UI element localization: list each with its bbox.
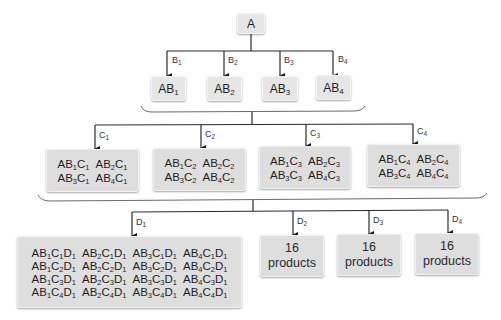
- brace-level2: [38, 193, 487, 201]
- node-c4-group: AB1C4AB2C4 AB3C4AB4C4: [367, 144, 460, 187]
- edge-label-b2: B2: [228, 56, 238, 65]
- node-ab1: AB1: [151, 76, 186, 101]
- edge-label-d4: D4: [452, 215, 462, 224]
- node-ab2: AB2: [207, 76, 242, 101]
- node-d1-group: AB1C1D1AB2C1D1AB3C1D1AB4C1D1 AB1C2D1AB2C…: [17, 236, 242, 308]
- node-ab4: AB4: [316, 75, 351, 100]
- product-unit: products: [345, 255, 393, 270]
- edge-label-b3: B3: [284, 56, 294, 65]
- edge-label-c1: C1: [99, 131, 109, 140]
- node-d4-products: 16 products: [415, 233, 479, 275]
- node-d3-products: 16 products: [337, 234, 401, 276]
- root-label: A: [247, 18, 255, 30]
- node-d2-products: 16 products: [260, 235, 324, 277]
- edge-label-b4: B4: [338, 55, 348, 64]
- node-ab3: AB3: [262, 76, 298, 101]
- node-c2-group: AB1C2AB2C2 AB3C2AB4C2: [153, 148, 246, 191]
- node-c3-group: AB1C3AB2C3 AB3C3AB4C3: [259, 146, 351, 189]
- brace-level1: [141, 106, 365, 112]
- product-count: 16: [423, 239, 471, 254]
- edge-label-c4: C4: [417, 127, 427, 136]
- product-count: 16: [345, 240, 393, 255]
- edge-label-d1: D1: [136, 218, 146, 227]
- edge-label-b1: B1: [172, 56, 182, 65]
- edge-label-d3: D3: [373, 216, 383, 225]
- product-unit: products: [268, 256, 316, 271]
- edge-label-c3: C3: [310, 129, 320, 138]
- root-node: A: [237, 13, 265, 34]
- edge-label-c2: C2: [205, 130, 215, 139]
- product-count: 16: [268, 241, 316, 256]
- edge-label-d2: D2: [297, 217, 307, 226]
- product-unit: products: [423, 254, 471, 269]
- node-c1-group: AB1C1AB2C1 AB3C1AB4C1: [46, 149, 139, 192]
